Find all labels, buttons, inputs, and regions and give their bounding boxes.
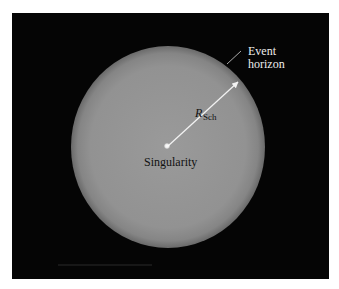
radius-label-subscript: Sch bbox=[203, 112, 217, 122]
event-horizon-leader-line bbox=[227, 51, 241, 64]
event-horizon-label-line2: horizon bbox=[248, 57, 285, 71]
singularity-point bbox=[164, 143, 170, 149]
event-horizon-label-line1: Event bbox=[248, 44, 277, 58]
radius-label-main: R bbox=[194, 106, 203, 120]
singularity-label: Singularity bbox=[144, 155, 197, 169]
black-hole-diagram: Event horizon R Sch Singularity bbox=[0, 0, 339, 289]
